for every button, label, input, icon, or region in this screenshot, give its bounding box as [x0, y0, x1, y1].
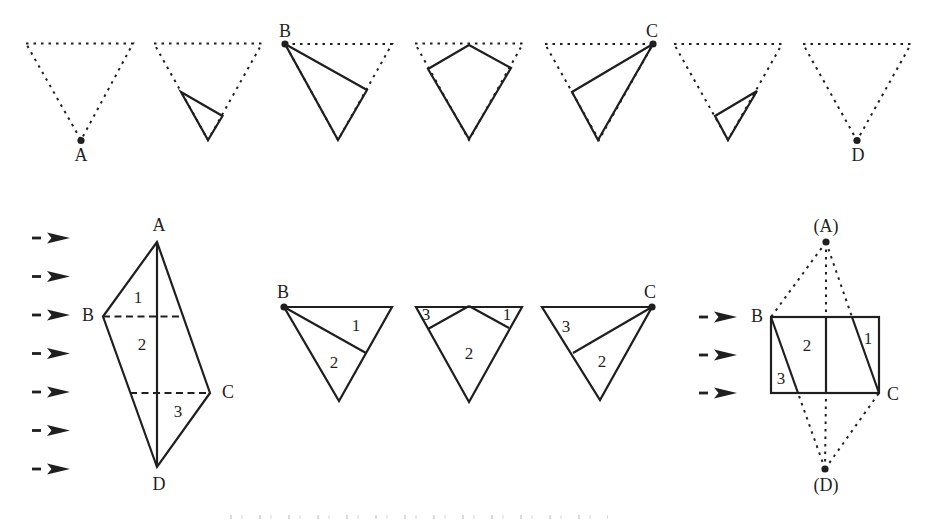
square-label-a: (A) — [814, 216, 839, 237]
dotted-triangle-outline — [803, 44, 911, 141]
dotted-triangle-outline — [285, 44, 392, 140]
square-figure: (A) B C (D) 1 2 3 — [751, 216, 899, 496]
square-label-c: C — [887, 384, 899, 404]
triangle-left-region-1: 1 — [352, 316, 361, 335]
figure-page: A B C — [0, 0, 925, 522]
solid-triangle — [285, 44, 367, 140]
vertex-label-d: D — [852, 145, 865, 165]
flow-arrow — [32, 387, 70, 398]
square-region-3: 3 — [777, 369, 786, 388]
dotted-triangle-outline — [26, 44, 133, 141]
vertex-dot-c — [649, 40, 656, 47]
flow-arrow — [32, 348, 70, 359]
rhombus-label-d: D — [153, 474, 166, 494]
geometry-figure-canvas: A B C — [0, 0, 925, 522]
dotted-d-to-bottom-mid — [825, 393, 826, 469]
triangle-left: B 1 2 — [277, 282, 392, 401]
triangle-middle-region-3: 3 — [422, 305, 431, 324]
dotted-triangle-outline — [154, 44, 262, 141]
rhombus-label-a: A — [153, 215, 166, 235]
frame-4 — [415, 44, 523, 141]
frame-6 — [674, 44, 782, 140]
frame-5: C — [545, 21, 658, 140]
flow-arrow — [32, 233, 70, 244]
square-region-1: 1 — [864, 329, 873, 348]
solid-triangle — [181, 92, 223, 140]
solid-triangle — [715, 91, 757, 140]
vertex-label-b: B — [279, 21, 291, 41]
flow-arrow — [32, 271, 70, 282]
frame-7: D — [803, 44, 911, 165]
rhombus-region-1: 1 — [134, 288, 143, 307]
flow-arrows-right — [699, 312, 737, 399]
square-region-2: 2 — [803, 336, 812, 355]
square-label-b: B — [751, 306, 763, 326]
rhombus-label-c: C — [222, 382, 234, 402]
solid-triangle — [572, 44, 653, 140]
triangle-right: C 3 2 — [542, 282, 656, 400]
frame-1: A — [26, 44, 133, 166]
vertex-label-c: C — [646, 21, 658, 41]
clipped-caption-remnant — [230, 515, 608, 519]
triangle-middle-region-1: 1 — [503, 305, 512, 324]
rhombus-region-3: 3 — [174, 402, 183, 421]
triangle-right-label-c: C — [644, 282, 656, 302]
flow-arrow — [699, 388, 737, 399]
rhombus-figure: A B C D 1 2 3 — [82, 215, 234, 494]
frame-3: B — [279, 21, 392, 140]
flow-arrow — [699, 350, 737, 361]
vertex-dot-d — [821, 465, 828, 472]
dotted-triangle-outline — [545, 44, 653, 140]
triangle-right-region-3: 3 — [562, 317, 571, 336]
vertex-dot-c — [648, 303, 655, 310]
flow-arrow — [699, 312, 737, 323]
vertex-dot-a — [822, 238, 829, 245]
flow-arrow — [32, 425, 70, 436]
dotted-d-to-diag-bottom — [798, 393, 825, 469]
rhombus-region-2: 2 — [138, 335, 147, 354]
vertex-dot-b — [280, 303, 287, 310]
triangle-right-region-2: 2 — [598, 352, 607, 371]
flow-arrow — [32, 310, 70, 321]
flow-arrow — [32, 464, 70, 475]
triangle-middle: 3 1 2 — [416, 305, 522, 402]
flow-arrows-left — [32, 233, 70, 475]
vertex-dot-d — [853, 137, 860, 144]
triangle-left-label-b: B — [277, 282, 289, 302]
dotted-a-to-b-corner — [771, 242, 826, 317]
dotted-triangle-outline — [674, 44, 782, 140]
triangle-middle-region-2: 2 — [465, 344, 474, 363]
dotted-d-to-c-corner — [825, 393, 879, 469]
frame-2 — [154, 44, 262, 141]
vertex-dot-b — [281, 40, 288, 47]
vertex-label-a: A — [75, 145, 88, 165]
rotation-sequence-row: A B C — [26, 21, 911, 165]
rhombus-label-b: B — [82, 305, 94, 325]
square-label-d: (D) — [814, 475, 839, 496]
vertex-dot-a — [77, 137, 84, 144]
solid-kite — [428, 45, 511, 139]
dotted-a-to-diag-top — [826, 242, 852, 317]
fold-line-left — [428, 306, 469, 329]
triangle-left-region-2: 2 — [330, 353, 339, 372]
dotted-triangle-outline — [415, 44, 523, 141]
